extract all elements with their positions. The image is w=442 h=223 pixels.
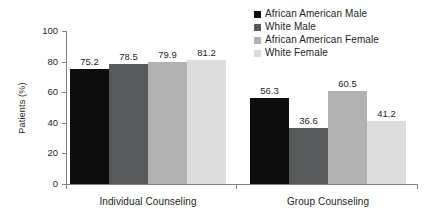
legend-item-label: White Male [265,20,316,33]
legend-item[interactable]: African American Female [252,33,438,46]
bar[interactable] [367,121,406,184]
bar[interactable] [187,60,226,184]
legend-item-label: African American Female [265,33,379,46]
bar-value-label: 78.5 [107,51,151,62]
bar-value-label: 79.9 [146,49,190,60]
bar-value-label: 36.6 [287,115,331,126]
bar-chart-figure: Patients (%) 100806040200 75.278.579.981… [0,0,442,223]
legend-item-label: White Female [265,46,328,59]
bar-value-label: 81.2 [185,47,229,58]
legend-swatch-icon [254,50,261,57]
bar[interactable] [109,64,148,184]
bar[interactable] [250,98,289,184]
x-axis-line [66,184,418,185]
bar[interactable] [289,128,328,184]
y-axis-tick-label: 100 [20,26,58,36]
y-axis-tick-label-text: 0 [20,179,58,189]
x-axis-tick-mark [417,185,418,189]
bar-group: 75.278.579.981.2 [70,31,226,184]
legend-item[interactable]: White Male [252,20,438,33]
bar-value-label: 41.2 [365,108,409,119]
legend-item-label: African American Male [265,7,367,20]
bar-value-label: 60.5 [326,78,370,89]
y-axis-tick-label-text: 100 [20,26,58,36]
y-axis-tick-label-text: 60 [20,87,58,97]
bar[interactable] [148,62,187,184]
y-axis-title: Patients (%) [14,32,30,184]
x-axis-category-label: Individual Counseling [68,195,228,209]
y-axis-tick-label-text: 80 [20,57,58,67]
y-axis-tick-label-text: 20 [20,148,58,158]
legend: African American MaleWhite MaleAfrican A… [252,7,438,59]
x-axis-category-label: Group Counseling [248,195,408,209]
x-axis-tick-mark [66,185,67,189]
legend-item[interactable]: White Female [252,46,438,59]
bar[interactable] [328,91,367,184]
y-axis-tick-label: 20 [20,148,58,158]
bar[interactable] [70,69,109,184]
y-axis-tick-label: 40 [20,118,58,128]
legend-swatch-icon [254,24,261,31]
y-axis-tick-label: 80 [20,57,58,67]
y-axis-tick-label-text: 40 [20,118,58,128]
x-axis-tick-mark [236,185,237,189]
y-axis-tick-label: 60 [20,87,58,97]
bar-value-label: 56.3 [248,85,292,96]
bar-value-label: 75.2 [68,56,112,67]
y-axis-tick-label: 0 [20,179,58,189]
legend-item[interactable]: African American Male [252,7,438,20]
legend-swatch-icon [254,11,261,18]
legend-swatch-icon [254,37,261,44]
